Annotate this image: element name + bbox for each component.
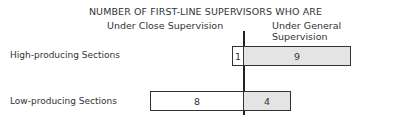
chart-title: NUMBER OF FIRST-LINE SUPERVISORS WHO ARE (0, 6, 399, 17)
row-label-high: High-producing Sections (10, 50, 120, 60)
row-label-low: Low-producing Sections (10, 96, 117, 106)
bar-low-general: 4 (243, 91, 291, 111)
bar-low-close: 8 (150, 91, 244, 111)
bar-high-general: 9 (243, 46, 351, 66)
close-supervision-header: Under Close Supervision (107, 20, 223, 31)
general-supervision-header: Under General Supervision (272, 20, 399, 42)
